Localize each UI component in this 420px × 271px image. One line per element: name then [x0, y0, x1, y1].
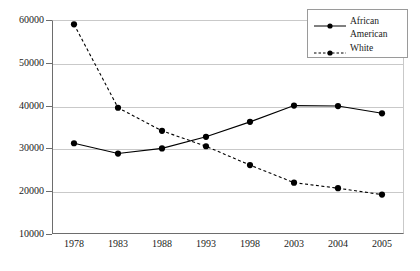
- x-axis-tick-label: 1978: [64, 238, 84, 249]
- x-axis-tick-label: 1998: [240, 238, 260, 249]
- x-axis-tick-label: 1988: [152, 238, 172, 249]
- y-axis-tick-label: 20000: [19, 186, 44, 196]
- data-point-marker: [159, 128, 165, 134]
- legend-label-african: African: [347, 17, 379, 27]
- legend-item-african-american: African: [313, 16, 379, 28]
- y-axis-tick-label: 30000: [19, 143, 44, 153]
- legend-item-white: White: [313, 43, 373, 55]
- data-point-marker: [203, 143, 209, 149]
- y-axis-tick-mark: [46, 148, 52, 149]
- x-axis-tick-label: 2003: [284, 238, 304, 249]
- y-axis-tick-mark: [46, 63, 52, 64]
- legend-key-dashed-line-marker: [313, 44, 347, 54]
- y-axis-labels: 100002000030000400005000060000: [0, 0, 44, 271]
- data-point-marker: [203, 134, 209, 140]
- legend-label-white: White: [347, 44, 373, 54]
- x-axis-tick-label: 1993: [196, 238, 216, 249]
- data-point-marker: [115, 105, 121, 111]
- y-axis-tick-label: 60000: [19, 15, 44, 25]
- legend-key-solid-line-marker: [313, 17, 347, 27]
- series-line-african-american: [74, 106, 382, 154]
- data-point-marker: [247, 162, 253, 168]
- data-point-marker: [291, 103, 297, 109]
- chart-legend: African American White: [307, 9, 408, 58]
- y-axis-tick-label: 50000: [19, 58, 44, 68]
- y-axis-tick-mark: [46, 234, 52, 235]
- x-axis-tick-label: 2004: [328, 238, 348, 249]
- y-axis-tick-label: 40000: [19, 101, 44, 111]
- data-point-marker: [71, 140, 77, 146]
- data-point-marker: [115, 150, 121, 156]
- y-axis-tick-label: 10000: [19, 229, 44, 239]
- data-point-marker: [291, 180, 297, 186]
- x-axis-tick-label: 2005: [372, 238, 392, 249]
- y-axis-tick-mark: [46, 20, 52, 21]
- data-point-marker: [159, 145, 165, 151]
- x-axis-labels: 19781983198819931998200320042005: [52, 238, 404, 258]
- data-point-marker: [379, 110, 385, 116]
- y-axis-tick-mark: [46, 191, 52, 192]
- y-axis-tick-mark: [46, 106, 52, 107]
- data-point-marker: [379, 192, 385, 198]
- x-axis-tick-label: 1983: [108, 238, 128, 249]
- data-point-marker: [335, 185, 341, 191]
- chart-container: 100002000030000400005000060000 197819831…: [0, 0, 420, 271]
- data-point-marker: [71, 21, 77, 27]
- legend-label-american: American: [350, 30, 387, 40]
- data-point-marker: [247, 119, 253, 125]
- data-point-marker: [335, 103, 341, 109]
